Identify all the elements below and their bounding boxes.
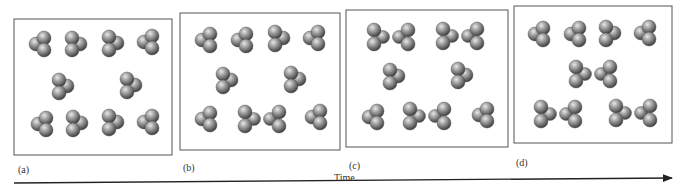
panel-d: [514, 6, 672, 143]
molecule-diagram: [0, 0, 684, 196]
monomer-molecule: [599, 20, 621, 47]
dimer-molecule: [238, 105, 286, 133]
monomer-molecule: [137, 29, 159, 55]
panel-label-d: (d): [516, 157, 528, 168]
monomer-molecule: [564, 21, 586, 47]
monomer-molecule: [195, 106, 217, 132]
monomer-molecule: [362, 104, 384, 130]
monomer-molecule: [65, 31, 87, 57]
time-axis-label: Time: [334, 172, 355, 183]
monomer-molecule: [31, 111, 53, 137]
panel-b: [180, 13, 340, 150]
monomer-molecule: [231, 27, 253, 53]
monomer-molecule: [284, 66, 306, 93]
monomer-molecule: [268, 25, 290, 52]
panel-label-b: (b): [183, 162, 195, 173]
monomer-molecule: [120, 72, 142, 99]
panel-c: [346, 10, 508, 147]
panel-label-c: (c): [349, 160, 360, 171]
monomer-molecule: [472, 102, 494, 128]
figure: (a) (b) (c) (d) Time: [0, 0, 684, 196]
dimer-molecule: [534, 100, 582, 128]
monomer-molecule: [528, 21, 550, 47]
monomer-molecule: [102, 30, 124, 57]
monomer-molecule: [102, 109, 124, 136]
monomer-molecule: [66, 110, 88, 137]
monomer-molecule: [451, 62, 473, 89]
monomer-molecule: [195, 27, 217, 53]
dimer-molecule: [367, 23, 415, 51]
dimer-molecule: [436, 22, 484, 50]
monomer-molecule: [383, 63, 405, 90]
monomer-molecule: [216, 67, 238, 94]
monomer-molecule: [137, 109, 159, 135]
monomer-molecule: [52, 73, 74, 100]
panel-label-a: (a): [18, 164, 29, 175]
dimer-molecule: [569, 60, 617, 88]
monomer-molecule: [305, 104, 327, 130]
monomer-molecule: [29, 31, 51, 57]
monomer-molecule: [303, 25, 325, 51]
monomer-molecule: [634, 20, 656, 46]
dimer-molecule: [609, 99, 657, 127]
panel-a: [14, 19, 172, 155]
dimer-molecule: [403, 102, 451, 130]
